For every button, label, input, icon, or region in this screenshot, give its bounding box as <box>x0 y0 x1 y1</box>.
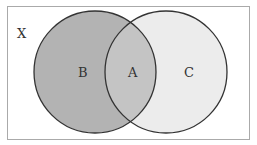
region-label-c: C <box>184 65 194 80</box>
venn-diagram: X B A C <box>0 0 257 145</box>
region-label-b: B <box>78 65 88 80</box>
region-label-a: A <box>127 65 138 80</box>
universe-label: X <box>17 26 27 41</box>
